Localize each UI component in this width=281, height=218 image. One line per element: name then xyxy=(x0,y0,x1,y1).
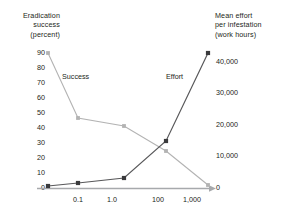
chart-figure: Eradication success (percent) Mean effor… xyxy=(0,0,281,218)
data-point-success-1 xyxy=(46,51,50,55)
data-point-success-5 xyxy=(206,183,210,187)
data-point-success-4 xyxy=(164,149,168,153)
data-point-effort-5 xyxy=(206,51,210,55)
series-effort xyxy=(46,51,210,188)
data-point-effort-2 xyxy=(76,181,80,185)
data-point-effort-3 xyxy=(122,176,126,180)
x-axis-line xyxy=(37,185,216,192)
data-point-effort-1 xyxy=(46,184,50,188)
series-success xyxy=(46,51,210,187)
data-point-success-2 xyxy=(76,116,80,120)
plot-area xyxy=(0,0,281,218)
data-point-effort-4 xyxy=(164,139,168,143)
data-point-success-3 xyxy=(122,124,126,128)
